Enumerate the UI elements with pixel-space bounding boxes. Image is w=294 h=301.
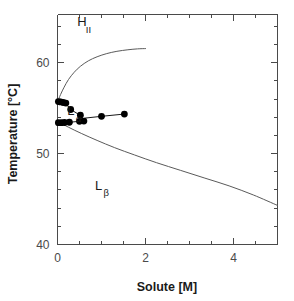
phase-diagram-figure: 024 405060 HIILαLβ Solute [M] Temperatur… [0, 0, 294, 301]
y-axis-title: Temperature [°C] [6, 84, 20, 185]
x-tick-label: 0 [54, 251, 61, 265]
phase-label-subscript: β [103, 187, 109, 198]
phase-label-l-beta: L [95, 178, 102, 193]
y-tick-label: 50 [36, 147, 50, 161]
chart-svg: 024 405060 HIILαLβ Solute [M] Temperatur… [0, 0, 294, 301]
phase-label-subscript: II [86, 24, 91, 35]
data-point-marker [121, 111, 128, 118]
y-tick-label: 40 [36, 238, 50, 252]
y-tick-label: 60 [36, 56, 50, 70]
x-axis-title: Solute [M] [137, 280, 197, 294]
x-tick-label: 4 [230, 251, 237, 265]
data-point-marker [98, 113, 105, 120]
phase-label-l-alpha: L [67, 103, 74, 118]
x-tick-label: 2 [142, 251, 149, 265]
phase-label-subscript: α [76, 113, 82, 124]
data-point-marker [66, 119, 73, 126]
